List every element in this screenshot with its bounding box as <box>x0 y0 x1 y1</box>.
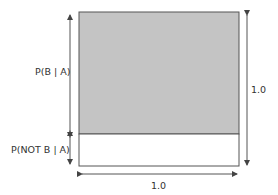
label-width: 1.0 <box>151 181 166 191</box>
diagram-graphics <box>0 0 278 195</box>
region-not-b-given-a <box>79 134 239 166</box>
label-b-given-a: P(B | A) <box>35 67 70 77</box>
region-b-given-a <box>79 12 239 134</box>
label-not-b-given-a: P(NOT B | A) <box>11 145 70 155</box>
label-height: 1.0 <box>251 85 266 95</box>
diagram-canvas: P(B | A) P(NOT B | A) 1.0 1.0 <box>0 0 278 195</box>
